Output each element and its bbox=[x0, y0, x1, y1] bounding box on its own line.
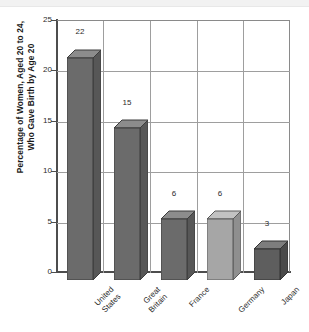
bar-japan[interactable]: 3 bbox=[254, 20, 288, 272]
x-category-label-france: France bbox=[187, 285, 211, 309]
plot-area: 22 15 6 6 bbox=[57, 20, 290, 272]
bar-3d-great-britain bbox=[114, 108, 148, 280]
y-axis-title-line-2: Who Gave Birth by Age 20 bbox=[26, 44, 38, 151]
x-category-label-japan: Japan bbox=[279, 285, 301, 307]
bar-chart-figure: Percentage of Women, Aged 20 to 24, Who … bbox=[0, 0, 309, 332]
y-tick-label-0: 0 bbox=[30, 268, 52, 276]
bar-united-states[interactable]: 22 bbox=[67, 20, 101, 272]
x-category-label-france-line-1: France bbox=[187, 285, 211, 309]
bar-germany[interactable]: 6 bbox=[207, 20, 241, 272]
bar-value-great-britain: 15 bbox=[112, 99, 142, 107]
bar-3d-france bbox=[161, 199, 195, 280]
bar-france[interactable]: 6 bbox=[161, 20, 195, 272]
bar-great-britain[interactable]: 15 bbox=[114, 20, 148, 272]
x-category-label-germany: Germany bbox=[237, 285, 267, 315]
gridline-category-1 bbox=[103, 21, 104, 273]
y-axis-title-line-1: Percentage of Women, Aged 20 to 24, bbox=[15, 21, 27, 173]
bar-value-france: 6 bbox=[159, 190, 189, 198]
bar-value-japan: 3 bbox=[252, 220, 282, 228]
bar-3d-united-states bbox=[67, 38, 101, 280]
y-tick-label-20: 20 bbox=[30, 66, 52, 74]
y-tick-label-25: 25 bbox=[30, 16, 52, 24]
gridline-category-2 bbox=[150, 21, 151, 273]
gridline-category-4 bbox=[243, 21, 244, 273]
bar-value-germany: 6 bbox=[205, 190, 235, 198]
y-tick-label-5: 5 bbox=[30, 218, 52, 226]
y-tick-label-10: 10 bbox=[30, 167, 52, 175]
bar-3d-germany bbox=[207, 199, 241, 280]
gridline-category-3 bbox=[197, 21, 198, 273]
x-category-label-japan-line-1: Japan bbox=[279, 285, 301, 307]
x-category-label-united-states: United States bbox=[93, 285, 123, 315]
bar-value-united-states: 22 bbox=[65, 28, 95, 36]
y-tick-label-15: 15 bbox=[30, 117, 52, 125]
x-category-label-germany-line-1: Germany bbox=[237, 285, 267, 315]
bar-3d-japan bbox=[254, 229, 288, 280]
x-category-label-great-britain: Great Britain bbox=[140, 285, 169, 314]
